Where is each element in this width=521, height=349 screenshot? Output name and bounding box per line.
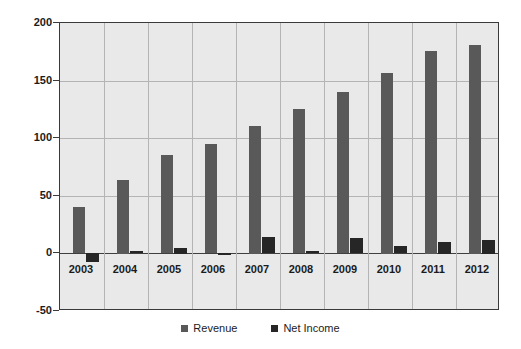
- bar-net-income-2003: [86, 253, 99, 262]
- bar-net-income-2008: [306, 251, 319, 253]
- x-axis-tick-label-2012: 2012: [455, 262, 499, 276]
- bar-revenue-2009: [337, 92, 349, 253]
- bar-net-income-2005: [174, 248, 187, 254]
- x-axis-tick-label-2004: 2004: [103, 262, 147, 276]
- y-axis: -50050100150200: [0, 0, 59, 332]
- x-axis-tick-label-2003: 2003: [59, 262, 103, 276]
- legend-label: Revenue: [193, 322, 237, 334]
- bar-revenue-2011: [425, 51, 437, 254]
- legend-item-net-income[interactable]: Net Income: [271, 322, 339, 334]
- x-axis-tick-label-2010: 2010: [367, 262, 411, 276]
- y-axis-tick-label: 50: [2, 190, 52, 200]
- chart-legend: RevenueNet Income: [0, 318, 521, 338]
- bar-net-income-2012: [482, 240, 495, 254]
- y-axis-tick-mark: [53, 310, 59, 311]
- x-axis-tick-label-2005: 2005: [147, 262, 191, 276]
- x-axis-tick-label-2007: 2007: [235, 262, 279, 276]
- y-axis-tick-label: 0: [2, 247, 52, 257]
- legend-item-revenue[interactable]: Revenue: [181, 322, 237, 334]
- bar-revenue-2006: [205, 144, 217, 253]
- bar-net-income-2009: [350, 238, 363, 253]
- bar-revenue-2005: [161, 155, 173, 253]
- bar-net-income-2004: [130, 251, 143, 253]
- bar-revenue-2012: [469, 45, 481, 254]
- y-axis-tick-label: 150: [2, 75, 52, 85]
- x-axis-tick-label-2008: 2008: [279, 262, 323, 276]
- bar-net-income-2010: [394, 246, 407, 253]
- y-axis-tick-label: -50: [2, 305, 52, 315]
- bar-revenue-2007: [249, 126, 261, 254]
- bar-revenue-2010: [381, 73, 393, 254]
- x-axis-tick-label-2011: 2011: [411, 262, 455, 276]
- bar-revenue-2003: [73, 207, 85, 253]
- legend-swatch-icon: [271, 325, 278, 332]
- legend-swatch-icon: [181, 325, 188, 332]
- bar-net-income-2011: [438, 242, 451, 254]
- bar-net-income-2006: [218, 253, 231, 255]
- legend-label: Net Income: [283, 322, 339, 334]
- x-axis-tick-label-2006: 2006: [191, 262, 235, 276]
- bar-revenue-2004: [117, 180, 129, 254]
- y-axis-tick-label: 100: [2, 132, 52, 142]
- bar-net-income-2007: [262, 237, 275, 253]
- bar-chart: -50050100150200 200320042005200620072008…: [0, 0, 521, 349]
- x-axis-tick-label-2009: 2009: [323, 262, 367, 276]
- x-axis: 2003200420052006200720082009201020112012: [59, 262, 499, 286]
- y-axis-tick-label: 200: [2, 17, 52, 27]
- bar-revenue-2008: [293, 109, 305, 253]
